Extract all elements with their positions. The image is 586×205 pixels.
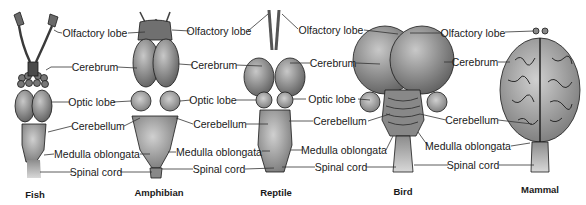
- label-cerebrum: Cerebrum: [452, 56, 499, 68]
- label-cerebellum: Cerebellum: [193, 118, 247, 130]
- label-optic-lobe: Optic lobe: [68, 96, 115, 108]
- label-cerebrum: Cerebrum: [72, 61, 119, 73]
- label-olfactory-lobe: Olfactory lobe: [299, 24, 364, 36]
- label-olfactory-lobe: Olfactory lobe: [63, 27, 128, 39]
- label-spinal-cord: Spinal cord: [447, 159, 500, 171]
- label-spinal-cord: Spinal cord: [193, 163, 246, 175]
- label-olfactory-lobe: Olfactory lobe: [441, 27, 506, 39]
- caption-bird: Bird: [394, 186, 413, 197]
- label-medulla-oblongata: Medulla oblongata: [425, 140, 511, 152]
- label-spinal-cord: Spinal cord: [315, 161, 368, 173]
- label-cerebrum: Cerebrum: [191, 59, 238, 71]
- label-olfactory-lobe: Olfactory lobe: [187, 25, 252, 37]
- label-spinal-cord: Spinal cord: [70, 166, 123, 178]
- label-cerebellum: Cerebellum: [71, 120, 125, 132]
- label-medulla-oblongata: Medulla oblongata: [54, 148, 140, 160]
- label-optic-lobe: Optic lobe: [189, 94, 236, 106]
- label-medulla-oblongata: Medulla oblongata: [301, 144, 387, 156]
- label-cerebellum: Cerebellum: [313, 115, 367, 127]
- caption-amphibian: Amphibian: [134, 187, 183, 198]
- label-medulla-oblongata: Medulla oblongata: [176, 146, 262, 158]
- fish-brain: [14, 12, 58, 178]
- label-optic-lobe: Optic lobe: [308, 93, 355, 105]
- mammal-brain: [500, 28, 580, 172]
- caption-reptile: Reptile: [260, 187, 292, 198]
- label-cerebrum: Cerebrum: [310, 57, 357, 69]
- caption-fish: Fish: [25, 189, 45, 200]
- caption-mammal: Mammal: [521, 184, 559, 195]
- label-cerebellum: Cerebellum: [445, 114, 499, 126]
